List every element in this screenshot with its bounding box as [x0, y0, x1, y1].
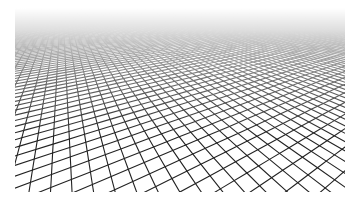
- perspective-grid-image: [15, 8, 345, 192]
- grid-lines: [15, 8, 345, 192]
